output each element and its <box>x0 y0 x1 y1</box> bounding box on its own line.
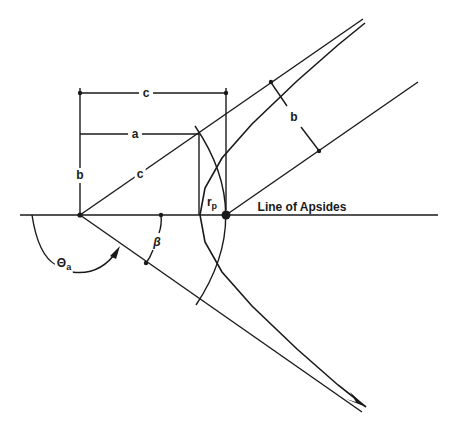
label-theta-subscript: a <box>66 262 71 272</box>
c-endpoint <box>224 91 228 95</box>
focus-parallel-line <box>226 82 418 215</box>
beta-arc <box>159 215 161 233</box>
label-c-top: c <box>141 87 152 99</box>
beta-arc <box>146 250 153 263</box>
beta-point <box>159 213 163 217</box>
lower-asymptote <box>80 215 362 412</box>
b-endpoint <box>269 80 273 84</box>
center-point <box>77 212 82 217</box>
beta-point <box>144 261 148 265</box>
label-theta-a: Θa <box>55 257 73 273</box>
label-rp: rp <box>205 196 219 212</box>
hyperbola-diagram <box>0 0 454 428</box>
theta-arc <box>32 215 56 265</box>
label-beta: β <box>151 236 162 248</box>
label-line-of-apsides: Line of Apsides <box>256 201 349 213</box>
b-endpoint <box>317 149 321 153</box>
label-c-diagonal: c <box>135 168 146 180</box>
label-b-right: b <box>288 111 299 123</box>
c-endpoint <box>78 91 82 95</box>
label-r-subscript: p <box>212 201 218 211</box>
label-b-left: b <box>74 169 85 181</box>
b-dimension-line <box>301 127 320 152</box>
upper-asymptote <box>80 19 363 215</box>
label-a: a <box>130 128 141 140</box>
label-theta: Θ <box>57 256 66 270</box>
theta-arc <box>72 251 117 273</box>
focus-point <box>222 211 231 220</box>
